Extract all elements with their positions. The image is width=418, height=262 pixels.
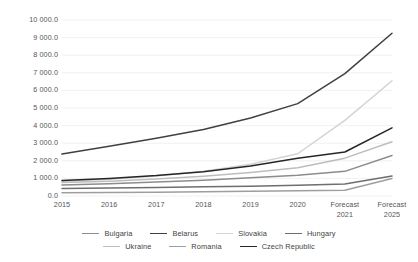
plot-svg: [62, 20, 392, 196]
plot-area: [62, 20, 392, 196]
chart-legend: BulgariaBelarusSlovakiaHungary UkraineRo…: [0, 226, 418, 260]
series-lines: [62, 33, 392, 193]
y-tick-label: 6 000.0: [0, 86, 58, 94]
y-tick-label: 4 000.0: [0, 122, 58, 130]
y-tick-label: 8 000.0: [0, 51, 58, 59]
x-tick-label: 2019: [242, 200, 258, 210]
y-tick-label: 2 000.0: [0, 157, 58, 165]
y-tick-label: 10 000.0: [0, 16, 58, 24]
x-tick-label: Forecast 2025: [378, 200, 407, 219]
x-axis: 201520162017201820192020Forecast 2021For…: [62, 200, 392, 226]
legend-item-bulgaria[interactable]: Bulgaria: [82, 229, 132, 238]
legend-item-slovakia[interactable]: Slovakia: [216, 229, 267, 238]
x-tick-label: 2015: [54, 200, 70, 210]
y-tick-label: 7 000.0: [0, 69, 58, 77]
series-line-czech-republic: [62, 128, 392, 181]
legend-row: BulgariaBelarusSlovakiaHungary: [0, 226, 418, 240]
legend-label: Bulgaria: [104, 229, 132, 238]
series-line-belarus: [62, 33, 392, 154]
x-tick-label: 2020: [290, 200, 306, 210]
legend-row: UkraineRomaniaCzech Republic: [0, 239, 418, 253]
y-tick-label: 0.0: [0, 192, 58, 200]
legend-label: Czech Republic: [262, 242, 315, 251]
x-tick-label: 2016: [101, 200, 117, 210]
legend-label: Ukraine: [125, 242, 151, 251]
y-tick-label: 3 000.0: [0, 139, 58, 147]
legend-swatch-icon: [103, 246, 120, 247]
x-tick-label: Forecast 2021: [330, 200, 359, 219]
legend-label: Slovakia: [238, 229, 267, 238]
series-line-ukraine: [62, 142, 392, 183]
y-tick-label: 9 000.0: [0, 34, 58, 42]
y-tick-label: 1 000.0: [0, 174, 58, 182]
y-axis: 10 000.09 000.08 000.07 000.06 000.05 00…: [0, 0, 58, 206]
legend-swatch-icon: [82, 233, 99, 234]
legend-item-ukraine[interactable]: Ukraine: [103, 242, 151, 251]
y-tick-label: 5 000.0: [0, 104, 58, 112]
legend-swatch-icon: [150, 233, 167, 234]
legend-item-belarus[interactable]: Belarus: [150, 229, 198, 238]
series-line-slovakia: [62, 81, 392, 182]
legend-swatch-icon: [169, 246, 186, 247]
legend-item-romania[interactable]: Romania: [169, 242, 221, 251]
legend-swatch-icon: [240, 246, 257, 247]
x-tick-label: 2018: [195, 200, 211, 210]
x-tick-label: 2017: [148, 200, 164, 210]
legend-item-hungary[interactable]: Hungary: [285, 229, 336, 238]
line-chart: 10 000.09 000.08 000.07 000.06 000.05 00…: [0, 0, 418, 262]
legend-swatch-icon: [285, 233, 302, 234]
legend-item-czech-republic[interactable]: Czech Republic: [240, 242, 315, 251]
legend-label: Belarus: [172, 229, 198, 238]
legend-label: Hungary: [307, 229, 336, 238]
legend-label: Romania: [191, 242, 221, 251]
legend-swatch-icon: [216, 233, 233, 234]
